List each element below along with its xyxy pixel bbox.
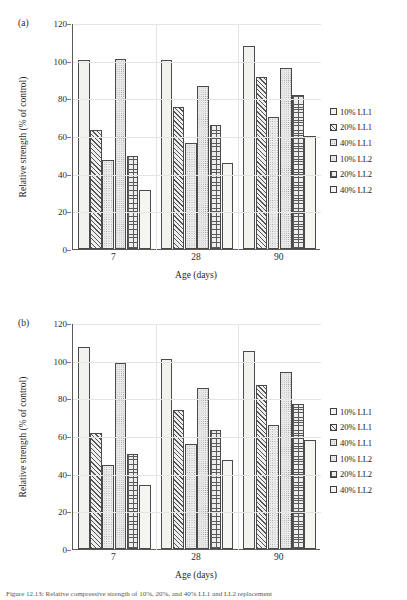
grid-line (73, 362, 321, 363)
y-tick-label: 120 (54, 19, 68, 29)
grid-line (73, 512, 321, 513)
bar-28-40ll2 (222, 163, 234, 249)
bar-90-20ll1 (256, 385, 268, 549)
legend-item[interactable]: 20% LL1 (330, 120, 406, 136)
legend-item[interactable]: 10% LL1 (330, 104, 406, 120)
legend-swatch-icon (330, 486, 337, 493)
bar-90-40ll2 (304, 440, 316, 549)
legend-item[interactable]: 40% LL2 (330, 482, 406, 498)
x-tick-label: 28 (191, 552, 201, 562)
x-axis-label-b: Age (days) (72, 570, 320, 580)
bars-a (73, 23, 321, 249)
legend-item-label: 40% LL1 (340, 438, 372, 448)
legend-swatch-icon (330, 439, 337, 446)
bar-28-20ll1 (173, 410, 185, 549)
figure-caption: Figure 12.13: Relative compressive stren… (6, 590, 406, 600)
group-separator (238, 324, 239, 550)
bar-28-10ll1 (161, 60, 173, 249)
y-tick-mark (67, 99, 71, 100)
bar-28-20ll1 (173, 107, 185, 249)
legend-item-label: 20% LL2 (340, 169, 372, 179)
legend-swatch-icon (330, 186, 337, 193)
bar-7-10ll1 (78, 60, 90, 249)
grid-line (73, 212, 321, 213)
legend-b: 10% LL120% LL140% LL110% LL220% LL240% L… (330, 404, 406, 498)
legend-item-label: 20% LL1 (340, 122, 372, 132)
y-tick-label: 20 (58, 207, 67, 217)
legend-item[interactable]: 20% LL2 (330, 466, 406, 482)
bar-90-10ll1 (243, 351, 255, 549)
legend-item[interactable]: 10% LL2 (330, 151, 406, 167)
legend-swatch-icon (330, 108, 337, 115)
bar-90-40ll2 (304, 136, 316, 249)
legend-item[interactable]: 40% LL1 (330, 135, 406, 151)
bar-28-20ll2 (210, 125, 222, 249)
legend-swatch-icon (330, 139, 337, 146)
y-tick-label: 100 (54, 57, 68, 67)
legend-item[interactable]: 20% LL1 (330, 420, 406, 436)
group-separator (238, 24, 239, 250)
bar-90-10ll2 (280, 68, 292, 249)
legend-item[interactable]: 10% LL2 (330, 451, 406, 467)
bar-7-10ll2 (115, 363, 127, 549)
chart-panel-b: (b) Relative strength (% of control) 020… (0, 300, 407, 595)
legend-item[interactable]: 20% LL2 (330, 166, 406, 182)
y-tick-label: 20 (58, 507, 67, 517)
legend-item[interactable]: 40% LL1 (330, 435, 406, 451)
legend-item-label: 10% LL2 (340, 154, 372, 164)
bar-90-40ll1 (268, 425, 280, 549)
chart-panel-a: (a) Relative strength (% of control) 020… (0, 0, 407, 295)
y-tick-mark (67, 137, 71, 138)
legend-item-label: 40% LL2 (340, 185, 372, 195)
legend-item-label: 40% LL2 (340, 485, 372, 495)
bar-28-10ll1 (161, 359, 173, 549)
figure-page: (a) Relative strength (% of control) 020… (0, 0, 407, 600)
y-tick-mark (67, 550, 71, 551)
bar-7-40ll2 (139, 190, 151, 249)
bar-7-40ll2 (139, 485, 151, 549)
legend-item-label: 40% LL1 (340, 138, 372, 148)
y-axis-ticks-a: 020406080100120 (0, 24, 67, 250)
legend-item-label: 20% LL2 (340, 469, 372, 479)
grid-line (73, 475, 321, 476)
legend-swatch-icon (330, 155, 337, 162)
legend-item[interactable]: 40% LL2 (330, 182, 406, 198)
x-tick-label: 28 (191, 252, 201, 262)
bar-7-20ll1 (90, 130, 102, 249)
y-tick-mark (67, 212, 71, 213)
x-tick-label: 90 (274, 252, 284, 262)
group-separator (156, 324, 157, 550)
bar-7-40ll1 (102, 465, 114, 549)
grid-line (73, 62, 321, 63)
legend-a: 10% LL120% LL140% LL110% LL220% LL240% L… (330, 104, 406, 198)
y-tick-mark (67, 175, 71, 176)
grid-line (73, 437, 321, 438)
bar-7-10ll1 (78, 347, 90, 549)
y-tick-mark (67, 437, 71, 438)
grid-line (73, 175, 321, 176)
legend-swatch-icon (330, 455, 337, 462)
y-tick-label: 120 (54, 319, 68, 329)
bar-90-20ll2 (292, 95, 304, 249)
bar-7-10ll2 (115, 59, 127, 249)
y-tick-label: 80 (58, 394, 67, 404)
bar-90-20ll2 (292, 404, 304, 549)
legend-item-label: 10% LL1 (340, 107, 372, 117)
plot-area-b (72, 324, 320, 550)
bar-28-40ll1 (185, 444, 197, 549)
bar-28-10ll2 (197, 86, 209, 249)
legend-item-label: 10% LL1 (340, 407, 372, 417)
plot-area-a (72, 24, 320, 250)
grid-line (73, 24, 321, 25)
y-tick-mark (67, 475, 71, 476)
legend-item-label: 20% LL1 (340, 422, 372, 432)
legend-item[interactable]: 10% LL1 (330, 404, 406, 420)
bar-7-20ll1 (90, 433, 102, 549)
y-axis-ticks-b: 020406080100120 (0, 324, 67, 550)
y-tick-label: 100 (54, 357, 68, 367)
y-tick-mark (67, 24, 71, 25)
group-separator (156, 24, 157, 250)
grid-line (73, 399, 321, 400)
grid-line (73, 137, 321, 138)
y-tick-mark (67, 62, 71, 63)
